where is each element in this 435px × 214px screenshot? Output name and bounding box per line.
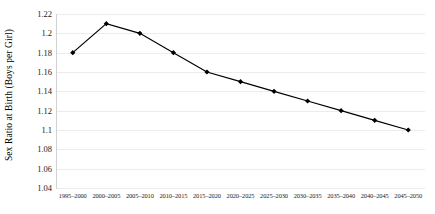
data-point-marker <box>406 127 411 132</box>
chart-svg <box>0 0 435 214</box>
x-axis-tick-label: 2045–2050 <box>394 192 422 199</box>
data-point-marker <box>171 50 176 55</box>
x-axis-tick-label: 1995–2000 <box>59 192 87 199</box>
x-axis-tick-label: 2015–2020 <box>193 192 221 199</box>
data-point-marker <box>372 118 377 123</box>
chart-container: Sex Ratio at Birth (Boys per Girl) 1.221… <box>0 0 435 214</box>
data-point-marker <box>204 69 209 74</box>
data-point-marker <box>271 89 276 94</box>
x-axis-tick-label: 2000–2005 <box>92 192 120 199</box>
data-point-marker <box>238 79 243 84</box>
x-axis-tick-label: 2030–2035 <box>294 192 322 199</box>
x-axis-tick-label: 2005–2010 <box>126 192 154 199</box>
data-line <box>73 24 408 130</box>
data-point-marker <box>305 98 310 103</box>
x-axis-tick-label: 2040–2045 <box>361 192 389 199</box>
x-axis-tick-label: 2020–2025 <box>227 192 255 199</box>
data-point-marker <box>137 31 142 36</box>
x-axis-tick-label: 2010–2015 <box>159 192 187 199</box>
x-axis-tick-label: 2025–2030 <box>260 192 288 199</box>
x-axis-tick-label: 2035–2040 <box>327 192 355 199</box>
data-point-marker <box>339 108 344 113</box>
